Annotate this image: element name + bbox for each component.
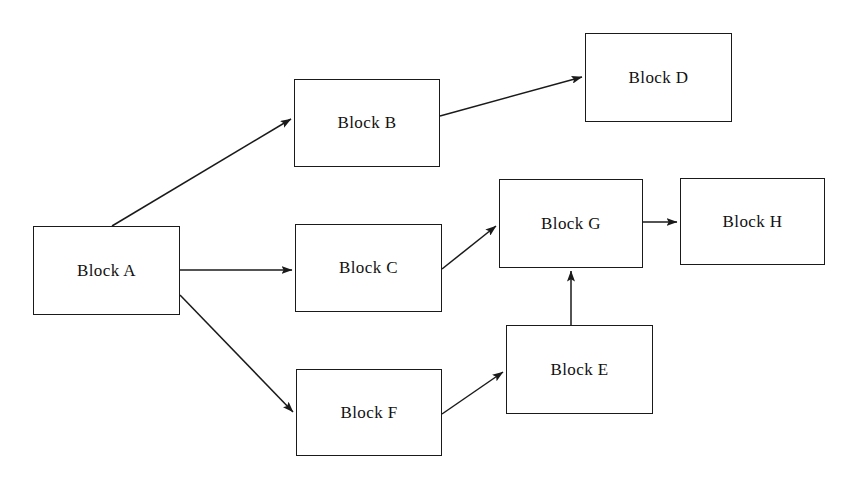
edge-f-to-e <box>442 372 503 414</box>
edge-a-to-f <box>180 295 293 412</box>
block-node-h[interactable]: Block H <box>680 178 825 265</box>
block-node-f[interactable]: Block F <box>296 369 442 456</box>
edge-a-to-b <box>112 119 291 226</box>
block-node-e[interactable]: Block E <box>506 325 653 414</box>
block-node-a[interactable]: Block A <box>33 226 180 315</box>
block-diagram-canvas: Block A Block B Block C Block D Block E … <box>0 0 850 488</box>
block-node-c[interactable]: Block C <box>295 224 442 312</box>
block-label-c: Block C <box>339 258 398 278</box>
block-label-d: Block D <box>629 68 689 88</box>
block-label-h: Block H <box>723 212 783 232</box>
block-node-g[interactable]: Block G <box>499 179 643 268</box>
edge-c-to-g <box>442 226 496 269</box>
block-label-g: Block G <box>541 214 601 234</box>
block-node-d[interactable]: Block D <box>585 33 732 122</box>
block-label-a: Block A <box>77 261 136 281</box>
block-node-b[interactable]: Block B <box>294 79 440 167</box>
block-label-b: Block B <box>338 113 397 133</box>
block-label-e: Block E <box>550 360 608 380</box>
edge-b-to-d <box>440 77 582 116</box>
block-label-f: Block F <box>340 403 397 423</box>
